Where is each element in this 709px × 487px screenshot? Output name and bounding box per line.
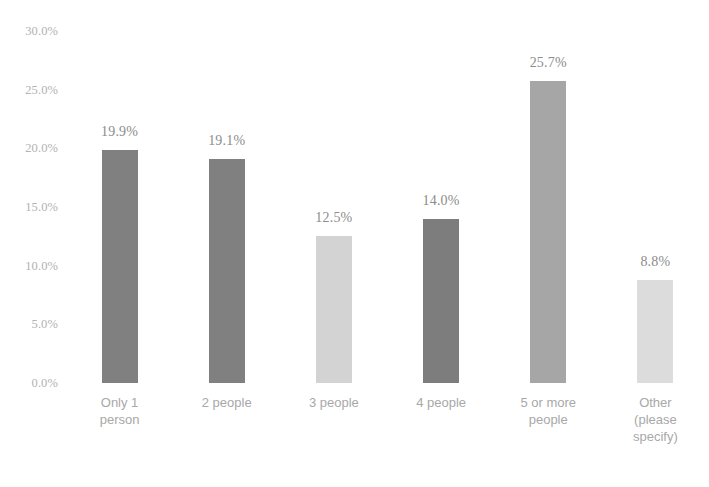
bar-group: 8.8%Other (please specify) bbox=[602, 0, 709, 487]
bar-value-label: 19.9% bbox=[101, 124, 138, 140]
bar-group: 19.9%Only 1 person bbox=[66, 0, 173, 487]
bar bbox=[637, 280, 673, 383]
bar-value-label: 25.7% bbox=[530, 55, 567, 71]
x-axis-category-label: Other (please specify) bbox=[609, 394, 701, 445]
y-axis-tick-label: 10.0% bbox=[25, 258, 58, 273]
y-axis-tick-label: 30.0% bbox=[25, 24, 58, 39]
x-axis-category-label: Only 1 person bbox=[74, 394, 166, 428]
bar bbox=[530, 81, 566, 383]
y-axis: 0.0%5.0%10.0%15.0%20.0%25.0%30.0% bbox=[0, 0, 66, 487]
y-axis-tick-label: 25.0% bbox=[25, 82, 58, 97]
bar bbox=[209, 159, 245, 383]
x-axis-category-label: 4 people bbox=[395, 394, 487, 411]
bar-value-label: 8.8% bbox=[640, 254, 670, 270]
y-axis-tick-label: 5.0% bbox=[32, 317, 58, 332]
y-axis-tick-label: 20.0% bbox=[25, 141, 58, 156]
bar-chart: 0.0%5.0%10.0%15.0%20.0%25.0%30.0% 19.9%O… bbox=[0, 0, 709, 487]
bar bbox=[423, 219, 459, 383]
y-axis-tick-label: 0.0% bbox=[32, 376, 58, 391]
bar-value-label: 14.0% bbox=[422, 193, 459, 209]
bar-value-label: 19.1% bbox=[208, 133, 245, 149]
bar bbox=[316, 236, 352, 383]
bar-group: 25.7%5 or more people bbox=[495, 0, 602, 487]
y-axis-tick-label: 15.0% bbox=[25, 200, 58, 215]
bar-value-label: 12.5% bbox=[315, 210, 352, 226]
bar-group: 14.0%4 people bbox=[388, 0, 495, 487]
bar bbox=[102, 150, 138, 383]
plot-area: 19.9%Only 1 person19.1%2 people12.5%3 pe… bbox=[66, 0, 709, 487]
x-axis-category-label: 3 people bbox=[288, 394, 380, 411]
bar-group: 12.5%3 people bbox=[280, 0, 387, 487]
bar-group: 19.1%2 people bbox=[173, 0, 280, 487]
x-axis-category-label: 2 people bbox=[181, 394, 273, 411]
x-axis-category-label: 5 or more people bbox=[502, 394, 594, 428]
